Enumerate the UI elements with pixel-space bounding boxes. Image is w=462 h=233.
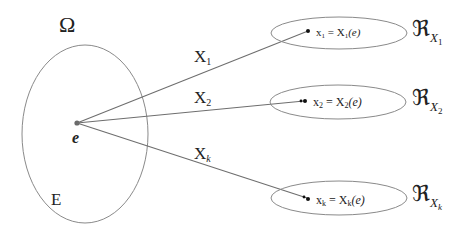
outcome-label: e bbox=[72, 129, 79, 146]
value-expression-k: xk = Xk(e) bbox=[316, 193, 365, 208]
mapping-line-2 bbox=[77, 101, 304, 123]
event-label: E bbox=[51, 190, 61, 209]
function-label-2: X2 bbox=[194, 88, 211, 108]
omega-label: Ω bbox=[59, 12, 75, 37]
mapping-line-1 bbox=[77, 31, 308, 123]
random-vector-diagram: Ω E e X1 X2 Xk x1 = X1(e) ℜX1 x2 = X2(e)… bbox=[0, 0, 462, 233]
value-point-1 bbox=[306, 29, 310, 33]
range-label-k: ℜXk bbox=[412, 181, 443, 212]
value-expression-1: x1 = X1(e) bbox=[316, 26, 361, 40]
range-label-2: ℜX2 bbox=[412, 85, 442, 116]
value-expression-2: x2 = X2(e) bbox=[313, 95, 362, 110]
value-point-k bbox=[306, 197, 310, 201]
function-label-k: Xk bbox=[194, 144, 211, 164]
function-label-1: X1 bbox=[194, 47, 211, 67]
value-point-2 bbox=[303, 99, 307, 103]
range-label-1: ℜX1 bbox=[412, 16, 442, 47]
value-point-2-tail bbox=[300, 100, 303, 103]
mapping-line-k bbox=[77, 123, 307, 198]
value-point-k-tail bbox=[303, 196, 306, 199]
sample-space-ellipse bbox=[22, 45, 148, 223]
